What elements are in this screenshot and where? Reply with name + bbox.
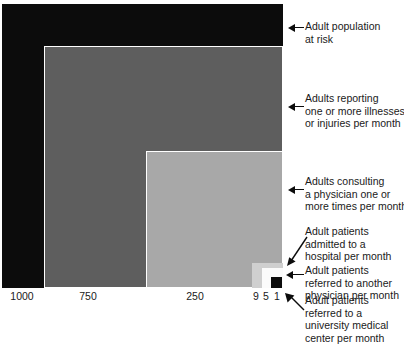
callout-line: Adult population [305,20,404,33]
callout-adults-consulting-physician: Adults consulting a physician one or mor… [305,175,404,213]
callout-line: admitted to a [305,238,404,251]
callout-adult-population-at-risk: Adult population at risk [305,20,404,45]
callout-line: center per month [305,332,404,345]
callout-line: Adults consulting [305,175,404,188]
callout-adults-reporting-illness: Adults reporting one or more illnesses o… [305,92,404,130]
axis-tick-1: 1 [274,290,280,303]
callout-line: a physician one or [305,188,404,201]
callout-line: more times per month [305,200,404,213]
callout-line: university medical [305,319,404,332]
callout-line: hospital per month [305,250,404,263]
callout-line: Adult patients [305,294,404,307]
callout-line: Adults reporting [305,92,404,105]
leader-arrow-adults-referred-physician [286,270,304,279]
leader-arrow-adults-reporting [288,102,304,111]
axis-tick-5: 5 [263,290,269,303]
callout-line: at risk [305,33,404,46]
callout-adults-referred-university: Adult patients referred to a university … [305,294,404,344]
callout-adults-admitted-hospital: Adult patients admitted to a hospital pe… [305,225,404,263]
axis-tick-1000: 1000 [10,290,33,303]
square-adults-referred-university [271,277,282,288]
callout-line: Adult patients [305,264,404,277]
x-axis: 1000 750 250 9 5 1 [0,290,290,306]
callout-line: one or more illnesses [305,105,404,118]
axis-tick-250: 250 [186,290,204,303]
ecology-of-medical-care-figure: 1000 750 250 9 5 1 Adult population at r… [0,0,404,351]
leader-arrow-adults-consulting [288,185,304,194]
leader-arrow-adult-population [288,23,304,32]
axis-tick-9: 9 [253,290,259,303]
callout-line: Adult patients [305,225,404,238]
axis-tick-750: 750 [79,290,97,303]
callout-line: or injuries per month [305,117,404,130]
callout-line: referred to another [305,277,404,290]
callout-line: referred to a [305,307,404,320]
